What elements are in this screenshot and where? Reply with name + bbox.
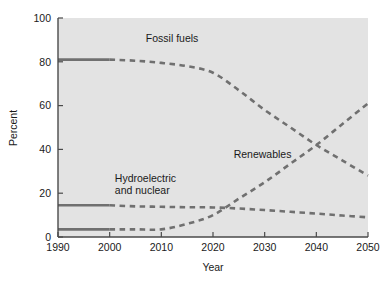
y-tick-label-0: 0 [45,231,51,243]
y-tick-label-20: 20 [39,187,51,199]
y-tick-label-80: 80 [39,56,51,68]
series-label-hydroelectric-line1: Hydroelectric [115,172,176,184]
x-axis-title: Year [202,261,224,273]
y-tick-label-40: 40 [39,143,51,155]
series-label-renewables: Renewables [234,148,292,160]
x-tick-label-2030: 2030 [253,241,277,253]
y-tick-label-100: 100 [33,12,51,24]
y-tick-label-60: 60 [39,99,51,111]
y-axis-title: Percent [7,110,19,146]
x-tick-label-2050: 2050 [356,241,380,253]
chart-container: 1990200020102020203020402050020406080100… [0,0,387,282]
x-tick-label-2020: 2020 [201,241,225,253]
x-tick-label-2040: 2040 [305,241,329,253]
x-tick-label-2000: 2000 [98,241,122,253]
x-tick-label-2010: 2010 [150,241,174,253]
series-label-fossil-fuels: Fossil fuels [146,32,199,44]
energy-mix-line-chart: 1990200020102020203020402050020406080100… [0,0,387,282]
series-label-hydroelectric-line2: and nuclear [115,184,170,196]
